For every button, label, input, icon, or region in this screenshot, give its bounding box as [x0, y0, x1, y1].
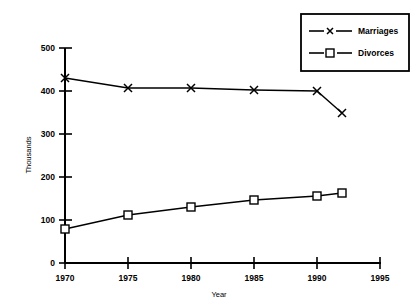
marriages-line — [65, 78, 342, 113]
x-tick-label-1980: 1980 — [182, 273, 201, 283]
square-marker-icon — [326, 49, 334, 57]
x-tick-label-1990: 1990 — [308, 273, 327, 283]
x-tick-label-1970: 1970 — [56, 273, 75, 283]
legend-border — [301, 14, 409, 71]
y-tick-label-400: 400 — [41, 86, 55, 96]
x-tick-label-1985: 1985 — [245, 273, 264, 283]
y-tick-label-200: 200 — [41, 172, 55, 182]
chart-canvas: 500 400 300 200 100 0 1970 1975 1980 198… — [0, 0, 419, 306]
line-chart: 500 400 300 200 100 0 1970 1975 1980 198… — [0, 0, 419, 306]
y-axis-title: Thousands — [24, 136, 33, 173]
series-marriages — [61, 74, 346, 117]
y-tick-label-500: 500 — [41, 43, 55, 53]
legend-label-marriages: Marriages — [358, 26, 398, 36]
y-tick-label-0: 0 — [50, 258, 55, 268]
marriages-markers — [61, 74, 346, 117]
series-divorces — [61, 189, 346, 233]
y-tick-label-300: 300 — [41, 129, 55, 139]
y-tick-label-100: 100 — [41, 215, 55, 225]
divorces-line — [65, 193, 342, 229]
divorces-markers — [61, 189, 346, 233]
chart-legend: Marriages Divorces — [301, 14, 409, 71]
x-axis-title: Year — [211, 290, 227, 299]
legend-label-divorces: Divorces — [358, 48, 394, 58]
x-tick-label-1995: 1995 — [371, 273, 390, 283]
x-tick-label-1975: 1975 — [119, 273, 138, 283]
